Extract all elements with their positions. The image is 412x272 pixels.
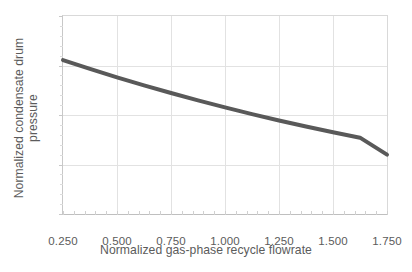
y-axis-title: Normalized condensate drum pressure: [12, 13, 40, 223]
series-path: [63, 60, 387, 155]
plot-area: 0.9000.9501.0001.0501.100 0.2500.5000.75…: [62, 15, 388, 215]
x-axis-minor-tick: [387, 211, 388, 215]
x-axis-title: Normalized gas-phase recycle flowrate: [0, 243, 412, 257]
series-line: [63, 16, 387, 214]
plot-inner: [63, 16, 387, 214]
chart-container: 0.9000.9501.0001.0501.100 0.2500.5000.75…: [0, 0, 412, 272]
